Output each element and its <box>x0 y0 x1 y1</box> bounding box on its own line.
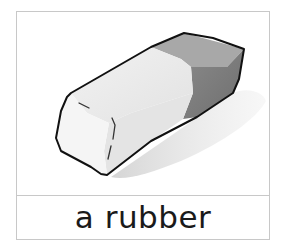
eraser-icon <box>17 12 269 195</box>
flashcard: a rubber <box>16 11 270 240</box>
caption-label: a rubber <box>17 196 269 239</box>
